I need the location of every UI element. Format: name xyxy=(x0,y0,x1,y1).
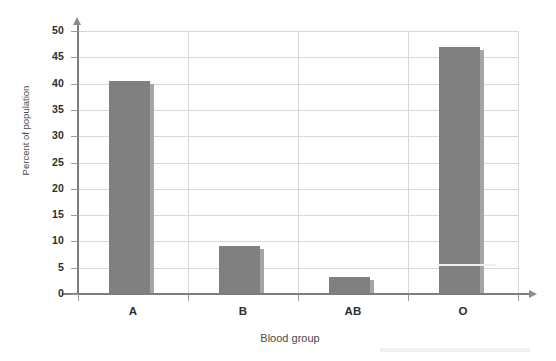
x-axis-line xyxy=(62,293,530,295)
y-axis-tick xyxy=(71,163,78,164)
bar-edge-shadow xyxy=(480,50,484,294)
y-axis-line xyxy=(77,24,79,295)
bar-o xyxy=(439,47,480,294)
x-axis-tick xyxy=(518,294,519,301)
gridline-vertical xyxy=(188,31,189,294)
x-axis-tick xyxy=(408,294,409,301)
y-axis-tick-label: 35 xyxy=(30,103,64,115)
y-axis-tick-label: 45 xyxy=(30,50,64,62)
y-axis-tick xyxy=(71,84,78,85)
y-axis-title: Percent of population xyxy=(20,71,31,191)
x-axis-tick xyxy=(298,294,299,301)
bar-ab xyxy=(329,277,370,294)
y-axis-tick-label: 15 xyxy=(30,208,64,220)
bar-edge-shadow xyxy=(150,84,154,294)
x-axis-arrowhead-icon xyxy=(529,290,537,298)
y-axis-tick xyxy=(71,110,78,111)
y-axis-tick-label: 50 xyxy=(30,24,64,36)
x-axis-tick xyxy=(78,294,79,301)
y-axis-tick xyxy=(71,215,78,216)
gridline-vertical xyxy=(518,31,519,294)
bar-edge-shadow xyxy=(260,249,264,294)
gridline-vertical xyxy=(298,31,299,294)
y-axis-tick xyxy=(71,136,78,137)
x-axis-title: Blood group xyxy=(190,332,390,344)
y-axis-tick xyxy=(71,57,78,58)
y-axis-tick-label: 40 xyxy=(30,77,64,89)
y-axis-tick-label: 10 xyxy=(30,234,64,246)
bar-a xyxy=(109,81,150,294)
y-axis-tick-label: 5 xyxy=(30,261,64,273)
x-axis-tick-label-a: A xyxy=(93,305,173,317)
gridline-vertical xyxy=(408,31,409,294)
x-axis-tick-label-o: O xyxy=(423,305,503,317)
y-axis-tick xyxy=(71,189,78,190)
y-axis-arrowhead-icon xyxy=(73,17,81,25)
y-axis-tick xyxy=(71,294,78,295)
y-axis-tick-label: 25 xyxy=(30,156,64,168)
y-axis-tick xyxy=(71,268,78,269)
y-axis-tick-label: 20 xyxy=(30,182,64,194)
plot-area xyxy=(78,31,518,294)
bar-chart: 05101520253035404550 ABABO Blood group P… xyxy=(0,0,556,361)
scan-artifact xyxy=(380,348,530,352)
x-axis-tick-label-b: B xyxy=(203,305,283,317)
x-axis-tick-label-ab: AB xyxy=(313,305,393,317)
y-axis-tick-label: 0 xyxy=(30,287,64,299)
x-axis-tick xyxy=(188,294,189,301)
bar-b xyxy=(219,246,260,294)
y-axis-tick xyxy=(71,241,78,242)
y-axis-tick xyxy=(71,31,78,32)
y-axis-tick-label: 30 xyxy=(30,129,64,141)
scan-artifact xyxy=(436,264,496,266)
bar-edge-shadow xyxy=(370,280,374,294)
